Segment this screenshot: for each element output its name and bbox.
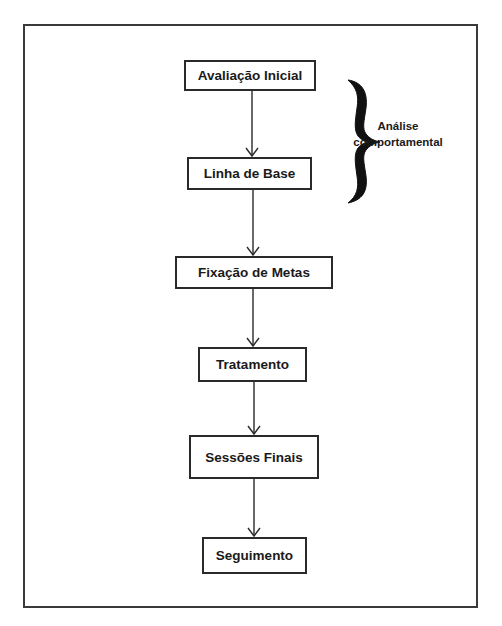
group-label-analise-comportamental: Análise comportamental — [343, 118, 453, 150]
node-label: Fixação de Metas — [198, 265, 310, 280]
node-linha-de-base: Linha de Base — [187, 157, 312, 190]
flow-arrows — [0, 0, 502, 626]
node-tratamento: Tratamento — [198, 347, 307, 382]
node-sessoes-finais: Sessões Finais — [189, 435, 319, 479]
group-label-line-2: comportamental — [343, 134, 453, 150]
node-avaliacao-inicial: Avaliação Inicial — [184, 60, 316, 91]
node-fixacao-de-metas: Fixação de Metas — [175, 256, 333, 289]
node-label: Linha de Base — [204, 166, 296, 181]
node-label: Tratamento — [216, 357, 289, 372]
node-seguimento: Seguimento — [202, 537, 307, 574]
node-label: Seguimento — [216, 548, 293, 563]
group-label-line-1: Análise — [343, 118, 453, 134]
node-label: Sessões Finais — [205, 450, 303, 465]
node-label: Avaliação Inicial — [198, 68, 303, 83]
